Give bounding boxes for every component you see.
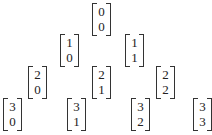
right-bracket	[42, 66, 47, 99]
binomial-2-2: 2 2	[156, 66, 175, 98]
right-bracket	[139, 34, 144, 67]
binomial-1-0: 1 0	[60, 34, 79, 66]
binomial-2-0: 2 0	[28, 66, 47, 98]
right-bracket	[170, 66, 175, 99]
right-bracket	[145, 98, 150, 131]
right-bracket	[81, 98, 86, 131]
binomial-0-0: 0 0	[92, 3, 111, 35]
right-bracket	[17, 98, 22, 131]
binomial-3-1: 3 1	[67, 98, 86, 130]
binomial-3-2: 3 2	[131, 98, 150, 130]
binomial-3-0: 3 0	[3, 98, 22, 130]
binomial-2-1: 2 1	[92, 66, 111, 98]
binomial-1-1: 1 1	[125, 34, 144, 66]
right-bracket	[74, 34, 79, 67]
right-bracket	[207, 98, 212, 131]
right-bracket	[106, 3, 111, 36]
right-bracket	[106, 66, 111, 99]
binomial-3-3: 3 3	[193, 98, 212, 130]
